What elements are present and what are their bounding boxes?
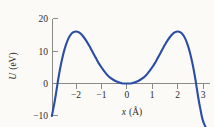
figure-container: 20 10 0 −10 −2 −1 0 1 2 3 x(Å) U(eV): [0, 0, 214, 127]
x-axis-tick-labels: −2 −1 0 1 2 3: [71, 90, 206, 100]
x-tick-label-2: 2: [175, 90, 180, 100]
x-axis-title-unit: (Å): [129, 106, 142, 118]
y-axis-tick-labels: 20 10 0 −10: [33, 14, 48, 121]
y-tick-label-0: 0: [43, 79, 48, 89]
potential-energy-chart: 20 10 0 −10 −2 −1 0 1 2 3 x(Å) U(eV): [0, 0, 214, 127]
y-tick-label-minus10: −10: [33, 111, 48, 121]
y-axis-title: U(eV): [8, 52, 19, 79]
x-tick-label-0: 0: [124, 90, 129, 100]
y-axis-title-symbol: U: [8, 72, 18, 80]
x-tick-label-3: 3: [201, 90, 206, 100]
x-axis-title: x(Å): [121, 106, 142, 118]
y-axis-title-unit: (eV): [8, 52, 19, 69]
x-tick-label-1: 1: [150, 90, 155, 100]
y-tick-label-10: 10: [39, 47, 49, 57]
x-tick-label-minus1: −1: [96, 90, 106, 100]
x-axis-title-symbol: x: [121, 107, 127, 117]
y-tick-label-20: 20: [39, 14, 49, 24]
x-tick-label-minus2: −2: [71, 90, 81, 100]
x-axis-ticks: [76, 84, 203, 89]
